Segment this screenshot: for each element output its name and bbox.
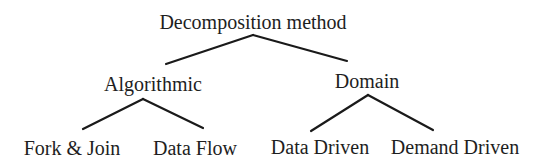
edge-root-to-domain [253, 35, 347, 61]
edge-algorithmic-to-data-flow [143, 99, 203, 128]
edge-algorithmic-to-fork-join [83, 99, 143, 129]
decomposition-tree-diagram: Decomposition method Algorithmic Domain … [0, 0, 542, 162]
edge-domain-to-demand-driven [368, 95, 433, 130]
node-root-decomposition-method: Decomposition method [159, 11, 346, 34]
node-domain: Domain [335, 70, 399, 92]
edge-domain-to-data-driven [311, 95, 368, 131]
node-data-flow: Data Flow [153, 137, 237, 159]
node-algorithmic: Algorithmic [104, 73, 202, 96]
node-data-driven: Data Driven [271, 136, 369, 158]
edge-root-to-algorithmic [166, 35, 253, 64]
node-demand-driven: Demand Driven [391, 136, 519, 158]
node-fork-and-join: Fork & Join [24, 137, 121, 159]
